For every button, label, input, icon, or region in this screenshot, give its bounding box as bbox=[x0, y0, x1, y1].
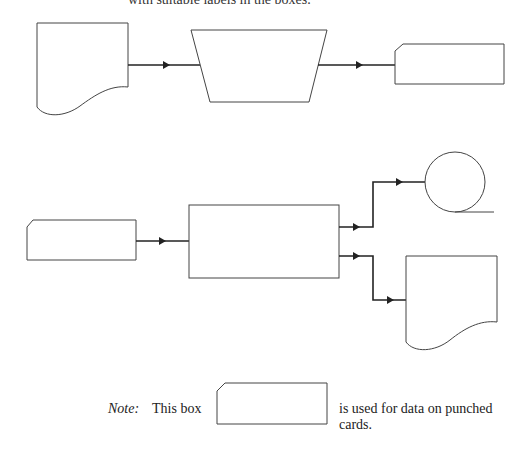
manual-operation-shape bbox=[191, 30, 327, 102]
document-shape-2 bbox=[406, 256, 497, 350]
arrow-process-to-tape bbox=[339, 178, 425, 231]
punched-card-shape-1 bbox=[395, 44, 504, 84]
flowchart-canvas bbox=[0, 0, 523, 452]
process-rectangle bbox=[189, 205, 339, 278]
arrow-manual-op-to-card bbox=[318, 61, 395, 69]
note-label: Note: bbox=[108, 401, 139, 417]
arrow-document-to-manual-op bbox=[128, 61, 200, 69]
arrow-card-to-process bbox=[136, 237, 189, 245]
note-punched-card-shape bbox=[217, 383, 327, 424]
note-prefix: This box bbox=[152, 401, 201, 417]
magnetic-tape-shape bbox=[425, 152, 494, 212]
punched-card-shape-2 bbox=[27, 220, 136, 260]
note-description: is used for data on punched cards. bbox=[339, 401, 519, 433]
arrow-process-to-document bbox=[339, 252, 406, 304]
document-shape-1 bbox=[37, 23, 128, 115]
